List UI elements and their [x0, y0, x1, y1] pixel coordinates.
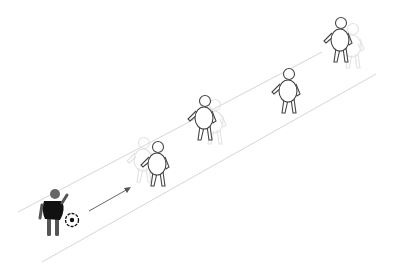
dribble-arrow	[89, 187, 131, 211]
soccer-ball-icon	[66, 214, 79, 227]
defender-2-icon	[188, 96, 216, 141]
arrow-head-icon	[124, 187, 131, 193]
defenders-group	[127, 18, 364, 187]
drill-diagram	[0, 0, 394, 273]
attacker-player-icon	[40, 189, 67, 236]
defender-3-icon	[272, 69, 300, 114]
lane-line-upper	[18, 52, 322, 212]
